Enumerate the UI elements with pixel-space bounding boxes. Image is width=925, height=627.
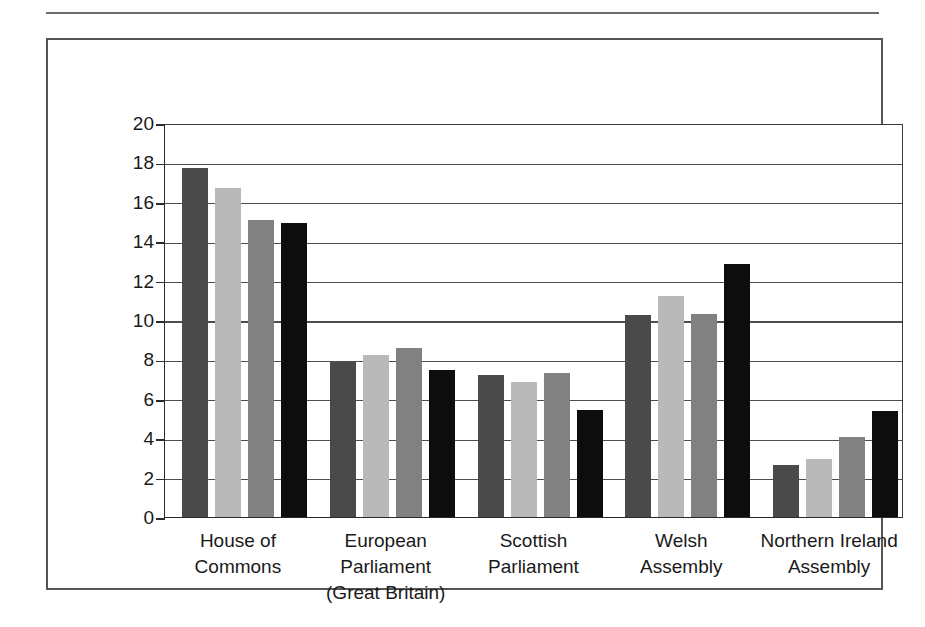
bar (724, 264, 750, 517)
y-axis-tick-labels: 20181614121086420 (104, 124, 154, 518)
category-label-line: Parliament (312, 554, 460, 580)
y-tick-label: 20 (133, 114, 154, 133)
tick-mark (156, 242, 165, 244)
y-tick-label: 12 (133, 272, 154, 291)
tick-mark (156, 321, 165, 323)
category-label-line: House of (164, 528, 312, 554)
category-label-line: (Great Britain) (312, 580, 460, 606)
tick-mark (156, 400, 165, 402)
bar (872, 411, 898, 517)
tick-mark (156, 479, 165, 481)
bar (396, 348, 422, 517)
category-label-line: Welsh (607, 528, 755, 554)
bar (577, 410, 603, 517)
gridline (165, 243, 902, 244)
category-label: ScottishParliament (460, 528, 608, 580)
top-horizontal-rule (46, 12, 879, 14)
y-tick-label: 8 (143, 350, 154, 369)
category-label: EuropeanParliament(Great Britain) (312, 528, 460, 606)
y-tick-label: 6 (143, 390, 154, 409)
y-tick-label: 18 (133, 153, 154, 172)
y-tick-label: 10 (133, 311, 154, 330)
bar (806, 459, 832, 517)
bar (478, 375, 504, 517)
bar (363, 355, 389, 517)
category-label-line: Assembly (755, 554, 903, 580)
tick-mark (156, 361, 165, 363)
bar (429, 370, 455, 517)
category-label: Northern IrelandAssembly (755, 528, 903, 580)
y-tick-label: 14 (133, 232, 154, 251)
category-label: WelshAssembly (607, 528, 755, 580)
bar (544, 373, 570, 517)
chart-figure-frame: 20181614121086420 House ofCommonsEuropea… (46, 38, 883, 590)
bar (330, 362, 356, 517)
bar (658, 296, 684, 517)
bar (691, 314, 717, 517)
tick-mark (156, 203, 165, 205)
tick-mark (156, 518, 165, 520)
category-label-line: Commons (164, 554, 312, 580)
category-label-line: Assembly (607, 554, 755, 580)
x-axis-category-labels: House ofCommonsEuropeanParliament(Great … (164, 528, 903, 624)
y-tick-label: 16 (133, 193, 154, 212)
tick-mark (156, 124, 165, 126)
plot-area (164, 124, 903, 518)
bar (182, 168, 208, 517)
bar (281, 223, 307, 518)
gridline (165, 164, 902, 165)
bar (839, 437, 865, 517)
category-label-line: Northern Ireland (755, 528, 903, 554)
tick-mark (156, 282, 165, 284)
gridline (165, 361, 902, 362)
gridline (165, 282, 902, 283)
bar (773, 465, 799, 517)
gridline (165, 321, 902, 322)
tick-mark (156, 439, 165, 441)
y-tick-label: 4 (143, 429, 154, 448)
bar (248, 220, 274, 517)
y-tick-label: 2 (143, 469, 154, 488)
tick-mark (156, 164, 165, 166)
category-label-line: European (312, 528, 460, 554)
category-label: House ofCommons (164, 528, 312, 580)
bar (625, 315, 651, 517)
gridline (165, 203, 902, 204)
y-tick-label: 0 (143, 508, 154, 527)
bar (215, 188, 241, 517)
category-label-line: Parliament (460, 554, 608, 580)
category-label-line: Scottish (460, 528, 608, 554)
bar (511, 382, 537, 517)
plot-area-wrapper (164, 124, 903, 518)
